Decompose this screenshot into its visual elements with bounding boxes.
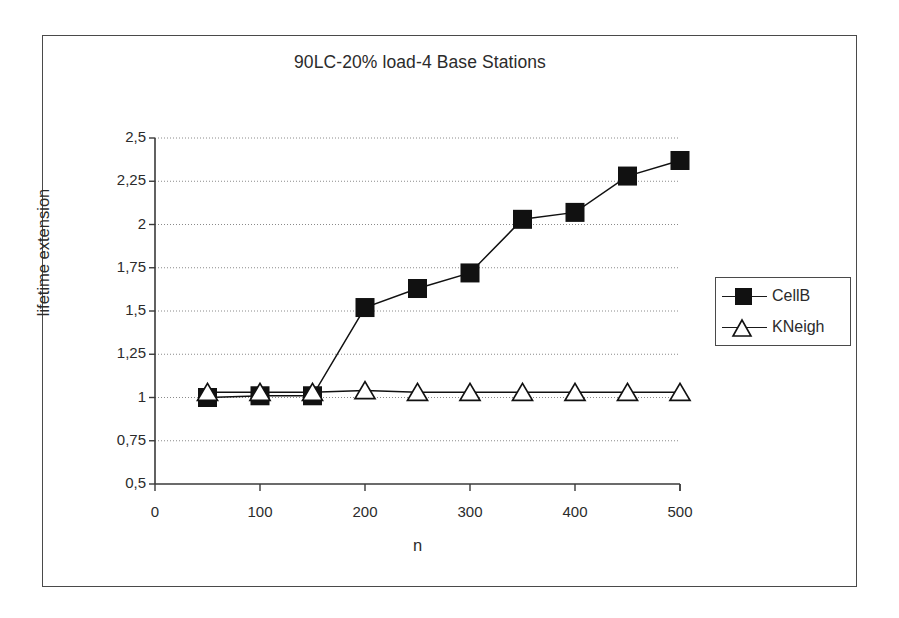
data-point-cellb-200	[356, 298, 375, 317]
legend-entry-kneigh: KNeigh	[716, 311, 852, 343]
legend: CellB KNeigh	[715, 277, 851, 346]
data-point-cellb-250	[408, 279, 427, 298]
data-point-cellb-450	[618, 167, 637, 186]
data-point-cellb-400	[566, 203, 585, 222]
legend-entry-cellb: CellB	[716, 280, 852, 312]
data-point-cellb-500	[671, 151, 690, 170]
data-series-layer	[198, 151, 691, 407]
legend-label-cellb: CellB	[772, 287, 810, 305]
legend-marker-hollow-triangle-icon	[716, 314, 772, 340]
axes	[149, 138, 680, 491]
series-line-kneigh	[208, 391, 681, 393]
chart-figure: 90LC-20% load-4 Base Stations lifetime e…	[0, 0, 899, 618]
data-point-cellb-300	[461, 263, 480, 282]
data-point-cellb-350	[513, 210, 532, 229]
legend-label-kneigh: KNeigh	[772, 318, 824, 336]
series-line-cellb	[208, 160, 681, 397]
legend-marker-filled-square-icon	[716, 283, 772, 309]
